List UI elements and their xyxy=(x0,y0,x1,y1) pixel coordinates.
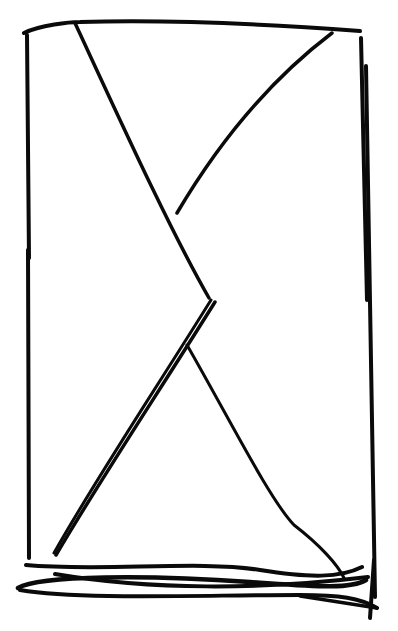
stroke-curve-upper-right xyxy=(177,33,332,213)
stroke-diag-lower-left-b xyxy=(54,300,211,553)
stroke-curve-lower-right xyxy=(187,345,344,578)
stroke-diag-upper-left xyxy=(75,23,209,298)
stroke-left-edge xyxy=(27,35,29,258)
stroke-right-edge-outer xyxy=(366,66,375,597)
sketch-canvas xyxy=(0,0,398,631)
stroke-bottom-scribble-1 xyxy=(26,565,362,576)
sketch-drawing xyxy=(0,0,398,631)
stroke-right-corner-stroke xyxy=(370,560,374,618)
stroke-diag-lower-left-a xyxy=(56,302,215,555)
stroke-left-edge-lower xyxy=(28,250,29,558)
